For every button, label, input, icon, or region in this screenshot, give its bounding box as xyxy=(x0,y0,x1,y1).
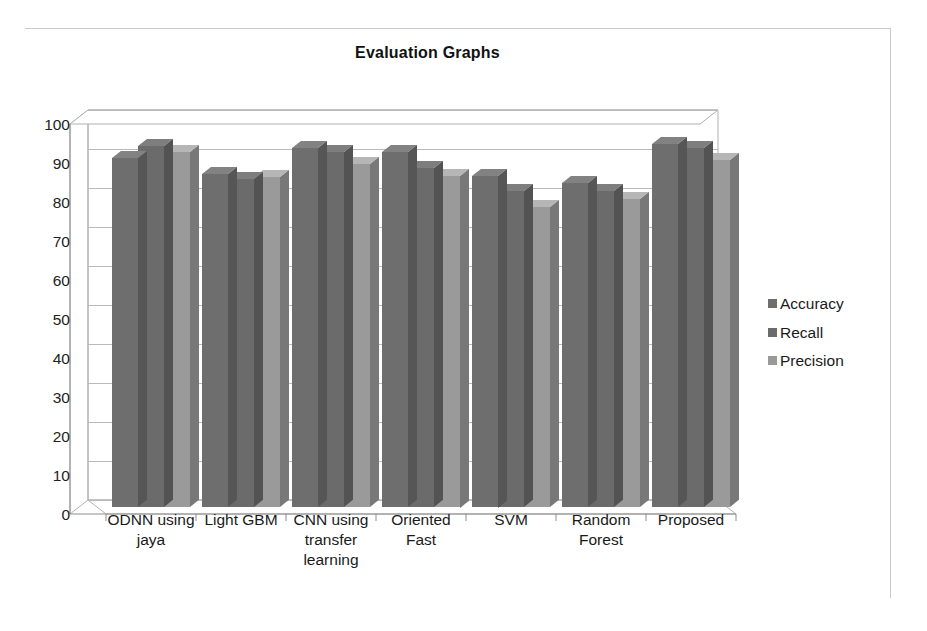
bar-side xyxy=(524,184,533,507)
bar-face xyxy=(652,144,678,507)
bar-face xyxy=(292,148,318,507)
bar-side xyxy=(344,145,353,507)
x-axis-label-line: Proposed xyxy=(640,510,742,530)
bar-side xyxy=(138,151,147,507)
bar-side xyxy=(588,176,597,507)
bar-side xyxy=(704,141,713,507)
legend-swatch-icon xyxy=(768,328,777,337)
bar-face xyxy=(472,176,498,508)
bar-face xyxy=(202,174,228,507)
x-axis-label-line: CNN using xyxy=(280,510,382,530)
bar-face xyxy=(562,183,588,507)
x-axis-label-line: SVM xyxy=(460,510,562,530)
x-axis-label-1: ODNN usingjaya xyxy=(100,510,202,550)
bar-accuracy-7 xyxy=(652,144,678,507)
bar-side xyxy=(640,192,649,507)
bar-side xyxy=(434,160,443,507)
x-axis-label-7: Proposed xyxy=(640,510,742,530)
x-axis-label-6: RandomForest xyxy=(550,510,652,550)
x-axis-label-line: Forest xyxy=(550,530,652,550)
bar-side xyxy=(730,153,739,507)
legend-label: Precision xyxy=(780,353,844,369)
bar-side xyxy=(228,166,237,507)
bar-side xyxy=(550,199,559,507)
legend-item-precision[interactable]: Precision xyxy=(768,353,844,369)
bar-side xyxy=(190,145,199,507)
legend-label: Accuracy xyxy=(780,296,844,312)
bar-accuracy-5 xyxy=(472,176,498,508)
bar-side xyxy=(614,184,623,507)
legend-swatch-icon xyxy=(768,299,777,308)
bar-face xyxy=(112,158,138,507)
chart-legend: AccuracyRecallPrecision xyxy=(768,296,844,382)
x-axis-label-5: SVM xyxy=(460,510,562,530)
x-axis-label-line: Oriented xyxy=(370,510,472,530)
bar-side xyxy=(164,139,173,507)
bar-side xyxy=(678,137,687,507)
x-axis-label-line: Fast xyxy=(370,530,472,550)
bar-face xyxy=(382,152,408,507)
bar-side xyxy=(498,168,507,507)
x-axis-label-line: transfer xyxy=(280,530,382,550)
bar-side xyxy=(460,168,469,507)
bar-accuracy-6 xyxy=(562,183,588,507)
x-axis-labels: ODNN usingjayaLight GBMCNN usingtransfer… xyxy=(0,510,927,610)
x-axis-label-line: Random xyxy=(550,510,652,530)
x-axis-label-3: CNN usingtransferlearning xyxy=(280,510,382,570)
x-axis-label-line: Light GBM xyxy=(190,510,292,530)
legend-swatch-icon xyxy=(768,356,777,365)
bar-accuracy-3 xyxy=(292,148,318,507)
x-axis-label-line: jaya xyxy=(100,530,202,550)
bar-accuracy-4 xyxy=(382,152,408,507)
x-axis-label-4: OrientedFast xyxy=(370,510,472,550)
legend-item-recall[interactable]: Recall xyxy=(768,325,844,341)
bar-accuracy-2 xyxy=(202,174,228,507)
x-axis-label-2: Light GBM xyxy=(190,510,292,530)
bar-side xyxy=(370,157,379,507)
legend-label: Recall xyxy=(780,325,823,341)
bar-side xyxy=(280,170,289,507)
bar-side xyxy=(408,145,417,507)
bar-accuracy-1 xyxy=(112,158,138,507)
legend-item-accuracy[interactable]: Accuracy xyxy=(768,296,844,312)
bar-side xyxy=(318,141,327,507)
chart-page: Evaluation Graphs 100 90 80 70 60 50 xyxy=(0,0,927,631)
bar-side xyxy=(254,172,263,507)
x-axis-label-line: ODNN using xyxy=(100,510,202,530)
x-axis-label-line: learning xyxy=(280,550,382,570)
